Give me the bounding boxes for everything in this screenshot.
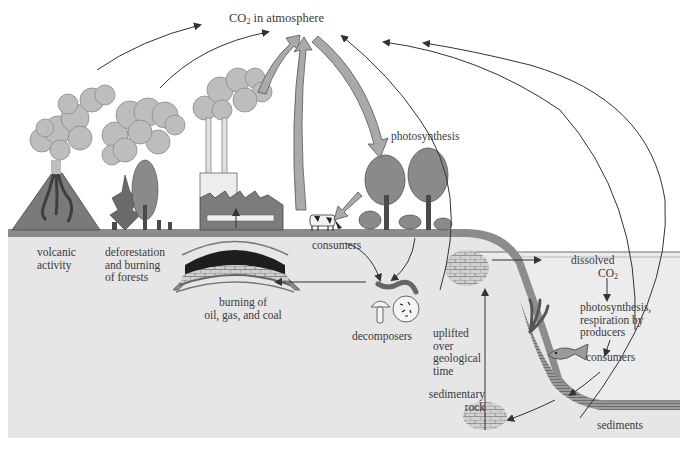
burning-forest-icon — [102, 98, 185, 230]
consumers-marine-label: consumers — [586, 351, 635, 364]
burning-fossil-fuels-label: burning ofoil, gas, and coal — [198, 296, 288, 321]
uplifted-label: upliftedovergeologicaltime — [433, 327, 481, 377]
sediments-label: sediments — [597, 419, 643, 432]
factory-icon — [193, 68, 283, 230]
bacteria-icon — [393, 296, 419, 322]
carbon-cycle-diagram: CO2 in atmosphere volcanicactivity defor… — [0, 0, 689, 451]
volcanic-activity-label: volcanicactivity — [37, 246, 76, 271]
photosynthesis-label: photosynthesis — [391, 130, 459, 143]
consumers-land-label: consumers — [312, 239, 361, 252]
volcano-icon — [12, 85, 115, 230]
co2-atmosphere-label: CO2 in atmosphere — [229, 12, 324, 29]
dissolved-co2-label: dissolved CO2 — [571, 254, 618, 283]
sedimentary-rock-label: sedimentaryrock — [415, 388, 485, 413]
marine-photosynthesis-label: photosynthesis,respiration byproducers — [580, 301, 651, 339]
diagram-artwork — [0, 0, 689, 451]
tree-icon — [359, 148, 452, 230]
deforestation-label: deforestationand burningof forests — [105, 246, 165, 284]
decomposers-label: decomposers — [352, 330, 412, 343]
